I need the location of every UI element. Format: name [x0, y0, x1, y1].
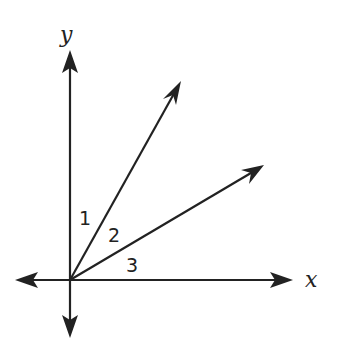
angle-label-1: 1 — [79, 207, 91, 229]
upper-ray-arrowhead — [163, 81, 181, 105]
angle-label-2: 2 — [108, 224, 120, 246]
x-axis-label: x — [305, 267, 318, 292]
y-axis — [62, 50, 78, 338]
lower-ray-arrowhead — [241, 165, 264, 184]
angle-diagram: y x 1 2 3 — [0, 0, 339, 359]
angle-label-3: 3 — [126, 254, 138, 276]
upper-ray — [70, 81, 181, 280]
x-axis — [15, 272, 293, 288]
y-axis-label: y — [59, 22, 73, 47]
lower-ray — [70, 165, 264, 280]
